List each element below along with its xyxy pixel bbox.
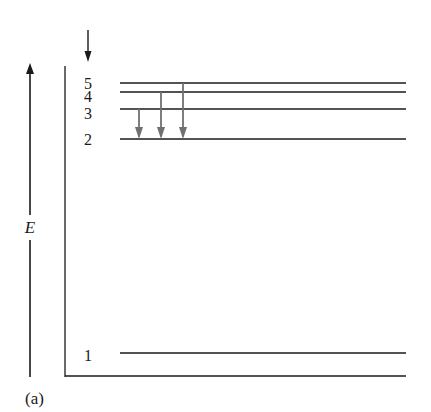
transition-4-to-2 [157,92,165,139]
energy-level-3: 3 [84,105,406,122]
arrow-down-icon [157,127,165,139]
energy-level-2: 2 [84,131,406,148]
arrow-up-icon [26,63,34,74]
panel-label: (a) [25,389,44,408]
energy-level-diagram: E 5 4 3 2 1 (a) [0,0,431,412]
arrow-down-icon [85,51,92,62]
level-label-4: 4 [84,88,92,105]
energy-level-5: 5 [84,75,406,92]
transition-3-to-2 [135,109,143,139]
level-label-2: 2 [84,131,92,148]
incoming-arrow [85,30,92,62]
energy-level-4: 4 [84,88,406,105]
arrow-down-icon [179,127,187,139]
energy-axis-label: E [24,218,36,237]
arrow-down-icon [135,127,143,139]
level-label-1: 1 [84,347,92,364]
level-label-3: 3 [84,105,92,122]
energy-level-1: 1 [84,347,406,364]
